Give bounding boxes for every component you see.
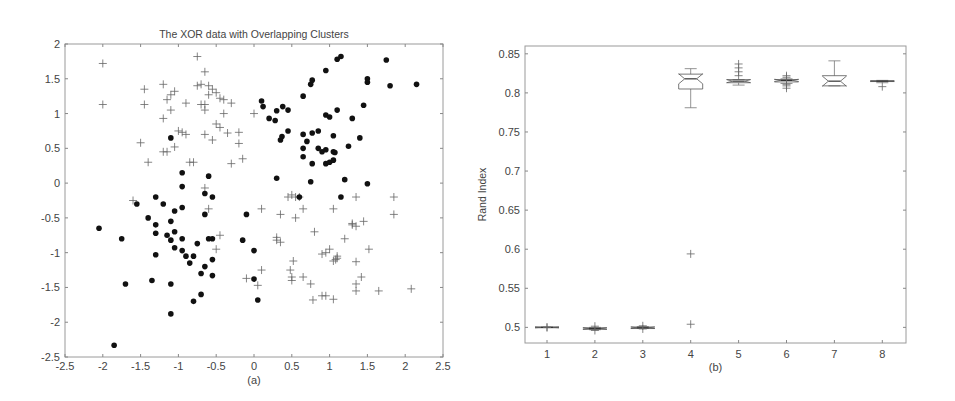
plus-marker — [357, 273, 365, 281]
dot-marker — [300, 132, 306, 138]
plus-marker — [212, 245, 220, 253]
outlier-marker — [783, 80, 791, 88]
x-tick-label: 2 — [402, 360, 408, 372]
plus-marker — [292, 214, 300, 222]
dot-marker — [384, 57, 390, 63]
plus-marker — [216, 94, 224, 102]
y-tick-label: 0 — [54, 177, 60, 189]
plus-marker — [407, 285, 415, 293]
plus-marker — [250, 110, 258, 118]
dot-marker — [206, 173, 212, 179]
plus-marker — [286, 266, 294, 274]
plus-marker — [216, 123, 224, 131]
plus-marker — [288, 191, 296, 199]
box-4 — [679, 69, 703, 329]
dot-marker — [179, 236, 185, 242]
box-7 — [822, 61, 846, 86]
dot-marker — [332, 150, 338, 156]
plus-marker — [182, 99, 190, 107]
y-tick-label: -2 — [50, 316, 60, 328]
plus-marker — [352, 287, 360, 295]
plus-marker — [212, 120, 220, 128]
dot-marker — [206, 236, 212, 242]
y-tick-label: 0.5 — [505, 321, 520, 333]
dot-marker — [172, 245, 178, 251]
dot-marker — [168, 135, 174, 141]
dot-marker — [255, 297, 261, 303]
dot-marker — [323, 68, 329, 74]
plus-marker — [190, 158, 198, 166]
plus-marker — [242, 274, 250, 282]
plus-marker — [201, 68, 209, 76]
plus-marker — [182, 130, 190, 138]
x-tick-label: 2 — [592, 348, 598, 360]
plus-marker — [159, 114, 167, 122]
plus-marker — [318, 250, 326, 258]
plus-marker — [239, 155, 247, 163]
plus-marker — [99, 101, 107, 109]
plus-marker — [216, 231, 224, 239]
dot-marker — [179, 170, 185, 176]
plus-marker — [254, 281, 262, 289]
box-1 — [535, 323, 559, 331]
y-tick-label: 0.55 — [499, 282, 520, 294]
plus-marker — [329, 295, 337, 303]
plus-marker — [299, 273, 307, 281]
y-tick-label: -1 — [50, 247, 60, 259]
dot-marker — [260, 104, 266, 110]
dot-marker — [168, 281, 174, 287]
dot-marker — [153, 252, 159, 258]
dot-marker — [266, 116, 272, 122]
dot-marker — [179, 205, 185, 211]
dot-marker — [179, 248, 185, 254]
plus-marker — [365, 245, 373, 253]
dot-marker — [387, 83, 393, 89]
box-3 — [631, 322, 655, 333]
dot-marker — [172, 208, 178, 214]
plus-marker — [178, 128, 186, 136]
y-tick-label: 0.8 — [505, 87, 520, 99]
dot-marker — [153, 222, 159, 228]
x-tick-label: -1.5 — [131, 360, 150, 372]
dot-marker — [285, 107, 291, 113]
dot-marker — [195, 241, 201, 247]
y-tick-label: 0.5 — [45, 142, 60, 154]
dot-marker — [309, 77, 315, 83]
box-8 — [870, 80, 894, 90]
dot-marker — [168, 311, 174, 317]
plus-marker — [329, 205, 337, 213]
x-tick-label: 1 — [327, 360, 333, 372]
dot-marker — [168, 219, 174, 225]
dot-marker — [160, 201, 166, 207]
plus-marker — [205, 205, 213, 213]
x-tick-label: -0.5 — [207, 360, 226, 372]
dot-marker — [149, 278, 155, 284]
dot-marker — [191, 299, 197, 305]
x-tick-label: 7 — [831, 348, 837, 360]
dot-marker — [153, 230, 159, 236]
plus-marker — [258, 266, 266, 274]
plus-marker — [341, 235, 349, 243]
y-tick-label: -2.5 — [41, 351, 60, 363]
plus-marker — [375, 287, 383, 295]
dot-marker — [304, 139, 310, 145]
x-tick-label: 1.5 — [360, 360, 375, 372]
plus-marker — [193, 53, 201, 61]
plus-marker — [140, 85, 148, 93]
x-tick-label: 0 — [251, 360, 257, 372]
dot-marker — [334, 107, 340, 113]
plus-marker — [352, 193, 360, 201]
boxplot-b: 0.50.550.60.650.70.750.80.8512345678(b)R… — [470, 0, 955, 401]
plus-marker — [208, 85, 216, 93]
dot-marker — [202, 212, 208, 218]
figure-a: The XOR data with Overlapping Clusters-2… — [0, 0, 470, 401]
plus-marker — [332, 256, 340, 264]
plus-marker — [352, 280, 360, 288]
dot-marker — [259, 98, 265, 104]
plus-marker — [197, 80, 205, 88]
dot-marker — [308, 179, 314, 185]
caption-a: (a) — [247, 374, 260, 386]
figure-b: 0.50.550.60.650.70.750.80.8512345678(b)R… — [470, 0, 955, 401]
dot-marker — [210, 194, 216, 200]
outlier-marker — [687, 250, 695, 258]
